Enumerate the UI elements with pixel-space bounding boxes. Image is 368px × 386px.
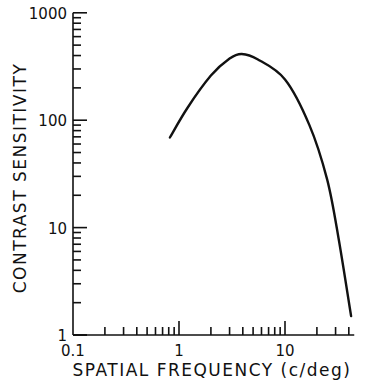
- data-line: [170, 54, 351, 316]
- x-tick-labels: 0.1110: [61, 342, 294, 360]
- x-tick-label: 10: [275, 342, 294, 360]
- y-axis: [73, 13, 87, 335]
- x-axis: [73, 321, 354, 335]
- y-tick-labels: 1101001000: [29, 5, 67, 345]
- chart: 1101001000 0.1110 CONTRAST SENSITIVITY S…: [0, 0, 368, 386]
- y-tick-label: 100: [38, 112, 67, 130]
- y-tick-label: 10: [48, 220, 67, 238]
- y-axis-label: CONTRAST SENSITIVITY: [10, 63, 30, 294]
- x-axis-label: SPATIAL FREQUENCY (c/deg): [72, 360, 351, 380]
- x-tick-label: 1: [174, 342, 184, 360]
- x-tick-label: 0.1: [61, 342, 85, 360]
- y-tick-label: 1000: [29, 5, 67, 23]
